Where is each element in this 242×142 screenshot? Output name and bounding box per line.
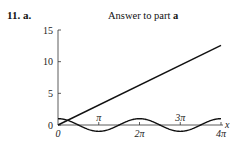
chart-plot: 0510150π2π3π4πx xyxy=(0,0,242,142)
x-tick-label: 2π xyxy=(134,128,145,139)
line-y-equals-x xyxy=(58,45,221,125)
x-tick-label: π xyxy=(96,112,102,123)
y-tick-label: 0 xyxy=(48,120,53,131)
x-tick-label: 0 xyxy=(56,128,61,139)
y-tick-label: 10 xyxy=(43,56,53,67)
y-tick-label: 5 xyxy=(48,88,53,99)
x-axis-label: x xyxy=(224,119,230,130)
x-tick-label: 3π xyxy=(174,112,186,123)
y-tick-label: 15 xyxy=(43,25,53,36)
